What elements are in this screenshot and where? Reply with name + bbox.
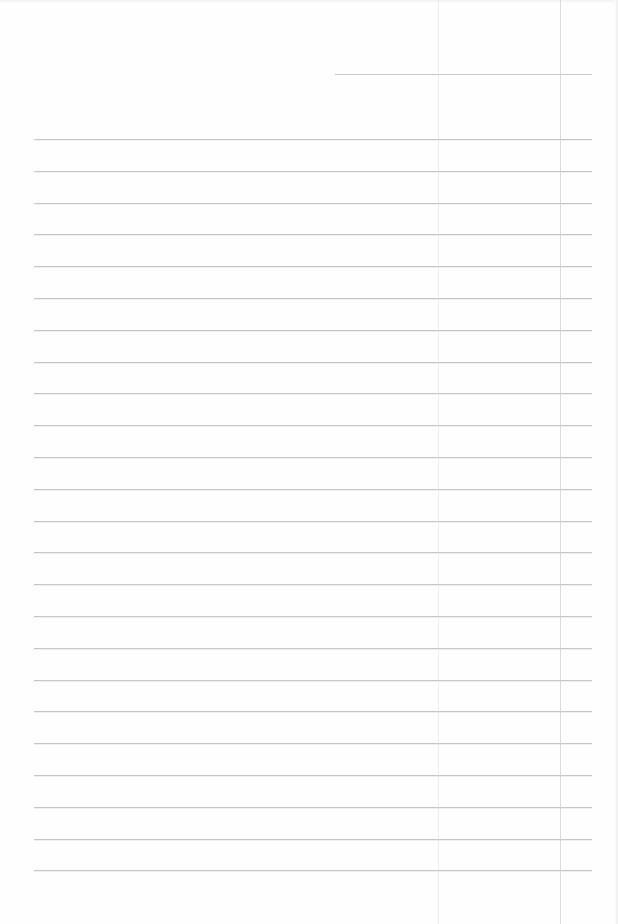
ruled-line — [34, 362, 592, 363]
ruled-line — [34, 775, 592, 776]
ruled-line — [34, 457, 592, 458]
ruled-line — [34, 234, 592, 235]
ruled-line — [34, 648, 592, 649]
ruled-line — [34, 489, 592, 490]
ruled-line — [34, 807, 592, 808]
ruled-line — [34, 139, 592, 140]
ruled-line — [34, 552, 592, 553]
ruled-line — [34, 298, 592, 299]
ruled-line — [34, 680, 592, 681]
ruled-line — [34, 330, 592, 331]
ruled-line — [34, 425, 592, 426]
ruled-line — [34, 711, 592, 712]
ruled-line — [34, 171, 592, 172]
ruled-line — [34, 839, 592, 840]
ruled-line — [34, 393, 592, 394]
ruled-line — [34, 266, 592, 267]
ruled-line — [34, 743, 592, 744]
ruled-line — [34, 203, 592, 204]
ruled-line — [34, 870, 592, 871]
header-title-line — [335, 74, 592, 75]
vertical-fold-mark — [560, 0, 561, 924]
scan-top-edge — [0, 0, 618, 3]
lined-paper-page — [0, 0, 618, 924]
ruled-line — [34, 584, 592, 585]
ruled-line — [34, 616, 592, 617]
vertical-fold-mark — [438, 0, 439, 924]
ruled-line — [34, 521, 592, 522]
